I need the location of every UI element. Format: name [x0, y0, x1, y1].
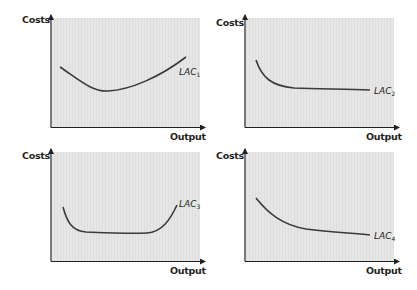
panel-lac2: Costs Output LAC2 — [216, 15, 402, 142]
plot-area — [52, 152, 200, 261]
x-axis-label: Output — [170, 265, 206, 276]
y-axis-label: Costs — [22, 150, 50, 161]
panel-lac1: Costs Output LAC1 — [22, 14, 206, 142]
y-axis-label: Costs — [216, 150, 244, 161]
x-axis-label: Output — [366, 265, 402, 276]
y-axis-label: Costs — [216, 17, 244, 28]
plot-area — [246, 152, 394, 261]
plot-area — [246, 18, 394, 127]
lac-curves-figure: Costs Output LAC1 Costs Output LAC2 Cost… — [0, 0, 417, 290]
panel-lac4: Costs Output LAC4 — [216, 149, 402, 276]
x-axis-label: Output — [366, 131, 402, 142]
panel-lac3: Costs Output LAC3 — [22, 149, 206, 276]
x-axis-label: Output — [170, 131, 206, 142]
plot-area — [52, 18, 200, 127]
y-axis-label: Costs — [22, 14, 50, 25]
